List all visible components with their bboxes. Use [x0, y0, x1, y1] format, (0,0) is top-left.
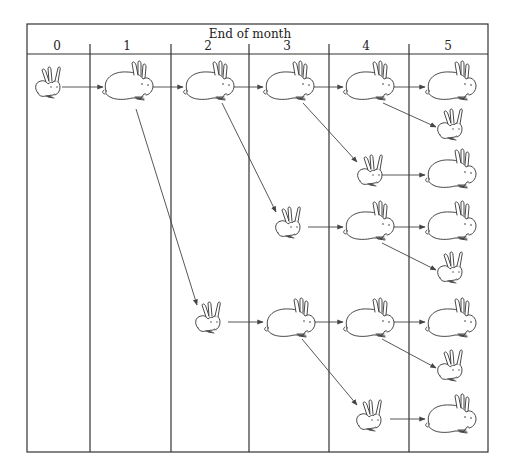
adult-rabbit-pair-icon [426, 61, 476, 100]
rabbits-layer [36, 61, 476, 433]
adult-rabbit-pair-icon [426, 298, 476, 337]
adult-rabbit-pair-icon [103, 61, 153, 100]
adult-rabbit-pair-icon [265, 298, 315, 337]
arrow-m1a-to-m2b [136, 109, 197, 305]
young-rabbit-pair-icon [438, 109, 463, 140]
young-rabbit-pair-icon [36, 67, 61, 98]
adult-rabbit-pair-icon [344, 61, 394, 100]
young-rabbit-pair-icon [438, 350, 463, 381]
young-rabbit-pair-icon [196, 302, 221, 333]
young-rabbit-pair-icon [276, 207, 301, 238]
month-label-5: 5 [444, 39, 452, 53]
adult-rabbit-pair-icon [184, 61, 234, 100]
month-label-4: 4 [362, 39, 370, 53]
arrow-m3a-to-m4b [303, 103, 357, 162]
young-rabbit-pair-icon [358, 155, 383, 186]
adult-rabbit-pair-icon [426, 394, 476, 433]
adult-rabbit-pair-icon [344, 201, 394, 240]
table-frame [27, 24, 488, 452]
month-label-0: 0 [53, 39, 61, 53]
outer-border [27, 24, 488, 452]
header-title: End of month [209, 27, 292, 41]
young-rabbit-pair-icon [357, 400, 382, 431]
month-label-1: 1 [123, 39, 131, 53]
adult-rabbit-pair-icon [344, 298, 394, 337]
adult-rabbit-pair-icon [426, 201, 476, 240]
young-rabbit-pair-icon [438, 252, 463, 283]
fibonacci-rabbit-diagram: End of month 0 1 2 3 4 5 [0, 0, 513, 474]
adult-rabbit-pair-icon [426, 149, 476, 188]
month-label-2: 2 [204, 39, 212, 53]
adult-rabbit-pair-icon [264, 61, 314, 100]
month-label-3: 3 [283, 39, 291, 53]
